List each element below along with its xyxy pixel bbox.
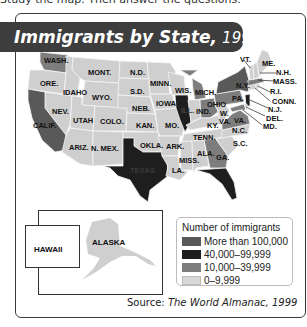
label-ill: ILL. [181, 106, 194, 115]
legend-swatch [182, 237, 201, 246]
label-va: VA. [234, 116, 246, 125]
label-wva-va: VA. [219, 117, 231, 126]
label-la: LA. [172, 166, 184, 175]
label-nd: N.D. [130, 68, 145, 77]
label-md: MD. [263, 122, 277, 131]
source-note: Source: The World Almanac, 1999 [127, 297, 297, 308]
legend: Number of immigrants More than 100,000 4… [176, 217, 293, 286]
title-year: 1996 [222, 29, 260, 47]
label-nc: N.C. [232, 126, 247, 135]
label-pa: PA. [232, 94, 244, 103]
legend-swatch [182, 276, 201, 285]
label-sd: S.D. [130, 87, 145, 96]
label-okla: OKLA. [140, 141, 163, 150]
label-me: ME. [262, 59, 275, 68]
source-citation: The World Almanac, 1999 [168, 297, 297, 308]
hawaii-label: HAWAII [34, 245, 62, 254]
label-colo: COLO. [100, 117, 124, 126]
legend-item: 0–9,999 [182, 274, 292, 287]
label-wis: WIS. [175, 86, 191, 95]
label-mont: MONT. [88, 68, 111, 77]
label-minn: MINN. [150, 79, 171, 88]
label-ariz: ARIZ. [69, 143, 89, 152]
label-neb: NEB. [132, 104, 150, 113]
label-nmex: N. MEX. [91, 144, 119, 153]
legend-label: 10,000–39,999 [204, 262, 271, 274]
label-mo: MO. [165, 121, 179, 130]
legend-item: More than 100,000 [182, 235, 292, 248]
legend-item: 40,000–99,999 [182, 248, 292, 261]
label-nj: N.J. [268, 105, 282, 114]
label-ny: N.Y. [236, 81, 250, 90]
label-kan: KAN. [136, 121, 154, 130]
label-ky: KY. [207, 121, 219, 130]
label-sc: S.C. [233, 139, 248, 148]
legend-item: 10,000–39,999 [182, 261, 292, 274]
label-vt: VT. [240, 55, 251, 64]
label-ri: R.I. [270, 87, 282, 96]
label-nev: NEV. [52, 107, 69, 116]
legend-label: More than 100,000 [204, 236, 288, 248]
label-utah: UTAH [73, 116, 93, 125]
label-nh: N.H. [276, 68, 291, 77]
source-prefix: Source: [127, 297, 165, 308]
label-texas: TEXAS [130, 166, 155, 175]
legend-label: 40,000–99,999 [204, 249, 271, 261]
label-mich: MICH. [195, 88, 216, 97]
legend-swatch [182, 250, 201, 259]
label-tenn: TENN. [193, 133, 216, 142]
label-wash: WASH. [44, 56, 69, 65]
label-ore: ORE. [40, 79, 58, 88]
label-wyo: WYO. [92, 93, 112, 102]
label-mass: MASS. [273, 77, 297, 86]
legend-label: 0–9,999 [204, 275, 240, 287]
map-title: Immigrants by State, 1996 [0, 22, 243, 52]
label-ala: ALA. [197, 149, 215, 158]
label-iowa: IOWA [156, 99, 177, 108]
label-ga: GA. [216, 153, 229, 162]
alaska-label: ALASKA [92, 238, 125, 247]
legend-title: Number of immigrants [182, 222, 292, 234]
label-idaho: IDAHO [63, 88, 87, 97]
state-fla [196, 168, 237, 200]
title-main: Immigrants by State, [14, 27, 217, 47]
legend-swatch [182, 263, 201, 272]
label-ark: ARK. [166, 142, 184, 151]
label-calif: CALIF. [33, 121, 56, 130]
label-ohio: OHIO [207, 100, 226, 109]
